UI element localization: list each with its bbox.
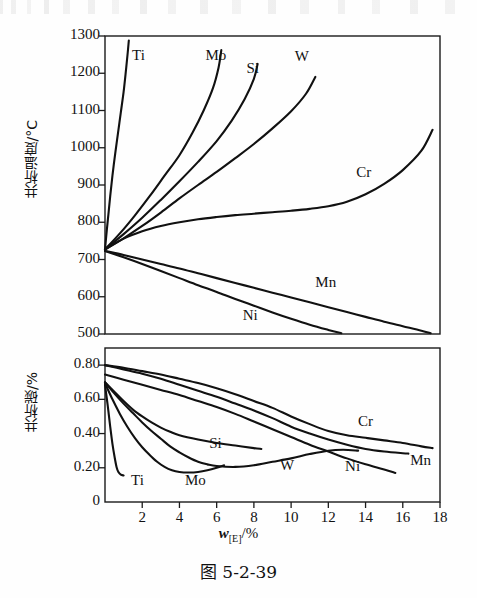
upper-y-tick-label: 700 xyxy=(42,250,100,267)
curve-mo xyxy=(105,383,224,472)
curve-label-mn: Mn xyxy=(315,274,336,291)
curve-label-mn: Mn xyxy=(410,452,431,469)
upper-chart-curves xyxy=(105,40,433,333)
x-tick-label: 6 xyxy=(201,509,233,526)
curve-ni xyxy=(105,251,341,333)
x-axis-symbol: w xyxy=(219,525,229,541)
upper-y-tick-label: 900 xyxy=(42,175,100,192)
curve-label-si: Si xyxy=(246,60,259,77)
lower-chart-tickmarks xyxy=(99,365,105,468)
figure-caption: 图 5-2-39 xyxy=(0,558,477,583)
lower-y-tick-label: 0.80 xyxy=(38,355,100,372)
curve-label-w: W xyxy=(295,48,309,65)
curve-w xyxy=(105,382,358,467)
curve-label-ti: Ti xyxy=(131,472,144,489)
x-tick-label: 8 xyxy=(238,509,270,526)
x-axis-subscript: [E] xyxy=(229,533,242,544)
curve-label-cr: Cr xyxy=(356,164,371,181)
upper-y-tick-label: 1300 xyxy=(42,26,100,43)
x-tick-label: 16 xyxy=(387,509,419,526)
upper-y-tick-label: 1100 xyxy=(42,101,100,118)
curve-mn xyxy=(105,365,408,453)
x-tick-label: 18 xyxy=(424,509,456,526)
x-axis-tickmarks xyxy=(142,502,440,508)
curve-label-ti: Ti xyxy=(132,47,145,64)
curve-label-ni: Ni xyxy=(243,307,258,324)
x-tick-label: 14 xyxy=(350,509,382,526)
lower-chart-curves xyxy=(105,365,433,475)
lower-y-tick-label: 0.60 xyxy=(38,389,100,406)
x-axis-unit: /% xyxy=(242,525,259,541)
lower-y-tick-label: 0.40 xyxy=(38,424,100,441)
upper-y-tick-label: 1200 xyxy=(42,63,100,80)
upper-y-tick-label: 500 xyxy=(42,324,100,341)
curve-label-si: Si xyxy=(209,435,222,452)
x-axis-title: w[E]/% xyxy=(0,525,477,544)
upper-y-tick-label: 1000 xyxy=(42,138,100,155)
upper-chart-frame xyxy=(105,36,440,334)
x-tick-label: 10 xyxy=(275,509,307,526)
curve-label-w: W xyxy=(280,457,294,474)
x-tick-label: 12 xyxy=(312,509,344,526)
curve-label-ni: Ni xyxy=(345,458,360,475)
lower-y-tick-label-zero: 0 xyxy=(38,492,100,509)
curve-mn xyxy=(105,251,431,333)
upper-y-tick-label: 600 xyxy=(42,287,100,304)
x-tick-label: 4 xyxy=(163,509,195,526)
upper-y-tick-label: 800 xyxy=(42,212,100,229)
curve-label-mo: Mo xyxy=(206,47,227,64)
curve-label-mo: Mo xyxy=(185,472,206,489)
curve-label-cr: Cr xyxy=(358,413,373,430)
curve-ti xyxy=(105,40,129,249)
x-tick-label: 2 xyxy=(126,509,158,526)
lower-y-tick-label: 0.20 xyxy=(38,458,100,475)
figure-container: 共析温度/°C 共析碳/% 50060070080090010001100120… xyxy=(0,0,477,598)
